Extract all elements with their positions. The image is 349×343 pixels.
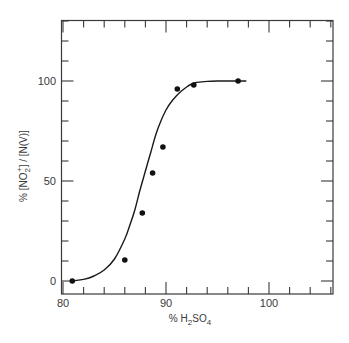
data-point — [122, 257, 128, 263]
data-point — [140, 210, 146, 216]
chart: 8090100 050100 % H2SO4 % [NO2+] / [N(V)] — [0, 0, 349, 343]
x-tick-label: 90 — [160, 297, 172, 309]
data-point — [160, 144, 166, 150]
axis-ticks — [62, 21, 334, 295]
y-tick-label: 50 — [44, 175, 56, 187]
data-point — [150, 170, 156, 176]
y-axis-label: % [NO2+] / [N(V)] — [15, 130, 32, 202]
x-axis-label: % H2SO4 — [169, 313, 212, 327]
x-tick-label: 80 — [57, 297, 69, 309]
data-point — [235, 78, 241, 84]
y-tick-labels: 050100 — [38, 75, 56, 287]
y-tick-label: 0 — [50, 275, 56, 287]
data-points — [69, 78, 240, 284]
y-tick-label: 100 — [38, 75, 56, 87]
x-tick-label: 100 — [260, 297, 278, 309]
x-tick-labels: 8090100 — [57, 297, 278, 309]
data-point — [175, 86, 181, 92]
fitted-curve — [72, 81, 246, 281]
data-point — [191, 82, 197, 88]
plot-frame — [62, 21, 334, 295]
data-point — [69, 278, 75, 284]
